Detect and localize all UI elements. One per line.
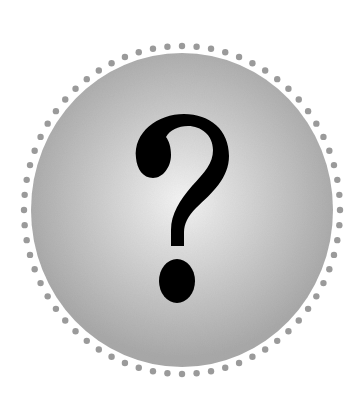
border-dot bbox=[313, 120, 319, 126]
border-dot bbox=[62, 317, 68, 323]
border-dot bbox=[249, 354, 255, 360]
border-dot bbox=[296, 317, 302, 323]
border-dot bbox=[274, 76, 280, 82]
border-dot bbox=[179, 43, 185, 49]
border-dot bbox=[136, 365, 142, 371]
border-dot bbox=[179, 371, 185, 377]
border-dot bbox=[62, 96, 68, 102]
border-dot bbox=[72, 328, 78, 334]
border-dot bbox=[236, 54, 242, 60]
border-dot bbox=[164, 44, 170, 50]
border-dot bbox=[96, 346, 102, 352]
border-dot bbox=[262, 67, 268, 73]
border-dot bbox=[274, 338, 280, 344]
border-dot bbox=[305, 306, 311, 312]
border-dot bbox=[331, 162, 337, 168]
border-dot bbox=[320, 134, 326, 140]
border-dot bbox=[326, 266, 332, 272]
border-dot bbox=[27, 162, 33, 168]
border-dot bbox=[208, 46, 214, 52]
border-dot bbox=[108, 60, 114, 66]
border-dot bbox=[222, 49, 228, 55]
border-dot bbox=[23, 177, 29, 183]
border-dot bbox=[193, 370, 199, 376]
border-dot bbox=[336, 192, 342, 198]
border-dot bbox=[23, 237, 29, 243]
question-badge bbox=[0, 0, 363, 400]
border-dot bbox=[96, 67, 102, 73]
border-dot bbox=[44, 120, 50, 126]
question-badge-graphic bbox=[0, 0, 363, 400]
border-dot bbox=[53, 306, 59, 312]
border-dot bbox=[150, 368, 156, 374]
border-dot bbox=[296, 96, 302, 102]
border-dot bbox=[44, 293, 50, 299]
border-dot bbox=[84, 338, 90, 344]
border-dot bbox=[320, 280, 326, 286]
border-dot bbox=[222, 365, 228, 371]
border-dot bbox=[31, 148, 37, 154]
border-dot bbox=[236, 360, 242, 366]
question-mark-dot bbox=[159, 259, 195, 303]
border-dot bbox=[136, 49, 142, 55]
border-dot bbox=[193, 44, 199, 50]
border-dot bbox=[21, 207, 27, 213]
border-dot bbox=[122, 360, 128, 366]
border-dot bbox=[150, 46, 156, 52]
border-dot bbox=[334, 237, 340, 243]
border-dot bbox=[305, 108, 311, 114]
border-dot bbox=[249, 60, 255, 66]
border-dot bbox=[326, 148, 332, 154]
border-dot bbox=[285, 86, 291, 92]
border-dot bbox=[108, 354, 114, 360]
border-dot bbox=[122, 54, 128, 60]
border-dot bbox=[72, 86, 78, 92]
border-dot bbox=[208, 368, 214, 374]
border-dot bbox=[53, 108, 59, 114]
border-dot bbox=[336, 222, 342, 228]
border-dot bbox=[27, 252, 33, 258]
border-dot bbox=[164, 370, 170, 376]
border-dot bbox=[31, 266, 37, 272]
border-dot bbox=[262, 346, 268, 352]
border-dot bbox=[313, 293, 319, 299]
border-dot bbox=[334, 177, 340, 183]
border-dot bbox=[21, 192, 27, 198]
border-dot bbox=[337, 207, 343, 213]
border-dot bbox=[21, 222, 27, 228]
border-dot bbox=[37, 134, 43, 140]
border-dot bbox=[285, 328, 291, 334]
border-dot bbox=[37, 280, 43, 286]
border-dot bbox=[84, 76, 90, 82]
border-dot bbox=[331, 252, 337, 258]
